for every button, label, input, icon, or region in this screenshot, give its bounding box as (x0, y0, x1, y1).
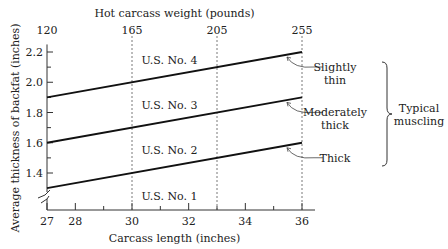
x-tick-label: 32 (182, 215, 196, 228)
top-axis-label: 165 (122, 24, 143, 37)
y-tick-label: 1.6 (26, 137, 44, 150)
x-tick-label: 28 (68, 215, 82, 228)
axis-break-mark (38, 190, 50, 203)
backfat-chart: 2728303234361.41.61.82.02.2120165205255H… (0, 0, 448, 249)
annotation-label: thin (324, 74, 346, 87)
x-tick-label: 34 (238, 215, 252, 228)
top-axis-title: Hot carcass weight (pounds) (94, 7, 254, 20)
x-tick-label: 27 (40, 215, 54, 228)
y-tick-label: 1.4 (26, 167, 44, 180)
annotation-label: Slightly (314, 61, 358, 74)
top-axis-label: 255 (292, 24, 313, 37)
top-axis-label: 120 (37, 24, 58, 37)
grade-region-label: U.S. No. 2 (142, 144, 198, 157)
top-axis-label: 205 (207, 24, 228, 37)
annotation-label: thick (321, 119, 349, 132)
curly-brace (382, 62, 392, 166)
annotation-leader (287, 148, 323, 158)
grade-region-label: U.S. No. 4 (142, 54, 198, 67)
x-tick-label: 30 (125, 215, 139, 228)
y-tick-label: 2.0 (26, 76, 44, 89)
brace-label: Typical (399, 102, 440, 115)
x-axis-title: Carcass length (inches) (109, 232, 240, 245)
x-tick-label: 36 (295, 215, 309, 228)
grade-region-label: U.S. No. 1 (142, 190, 198, 203)
grade-region-label: U.S. No. 3 (142, 99, 198, 112)
y-tick-label: 2.2 (26, 46, 44, 59)
y-axis-title: Average thickness of backfat (inches) (9, 23, 22, 233)
brace-label: muscling (394, 115, 444, 128)
annotation-label: Moderately (303, 106, 368, 119)
y-tick-label: 1.8 (26, 107, 44, 120)
annotation-label: Thick (320, 152, 351, 165)
